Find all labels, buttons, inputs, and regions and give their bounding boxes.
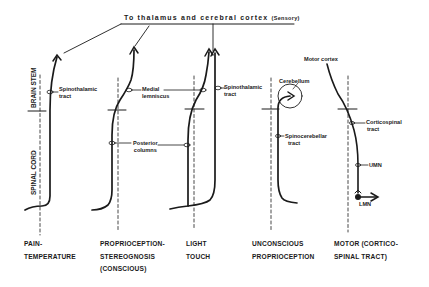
light-touch-spinothalamic-fiber — [188, 53, 215, 206]
caption-unconscious-proprioception: UNCONSCIOUS PROPRIOCEPTION — [252, 238, 315, 263]
spinal-cord-label: SPINAL CORD — [30, 150, 37, 195]
caption-pain-temperature: PAIN- TEMPERATURE — [24, 238, 76, 263]
diagram-title: To thalamus and cerebral cortex (Sensory… — [124, 14, 300, 21]
spinocerebellar-tract — [278, 96, 297, 203]
light-touch-medial-fiber — [170, 52, 209, 209]
posterior-column-tract — [92, 50, 134, 210]
caption-light-touch: LIGHT TOUCH — [186, 238, 210, 263]
brain-stem-label: BRAIN STEM — [30, 68, 37, 108]
corticospinal-label: Corticospinal tract — [366, 119, 402, 132]
synapse-spinothalamic-2 — [215, 86, 221, 90]
leader-line-1 — [64, 24, 121, 53]
leader-line-2 — [135, 26, 149, 46]
caption-proprioception: PROPRIOCEPTION- STEREOGNOSIS (CONSCIOUS) — [100, 238, 165, 276]
umn-label: UMN — [369, 162, 382, 169]
lmn-label: LMN — [359, 201, 371, 208]
synapse-posterior-columns-2 — [184, 143, 190, 147]
cerebellum-label: Cerebellum — [279, 78, 309, 85]
title-main: To thalamus and cerebral cortex — [124, 14, 268, 21]
spinocerebellar-label: Spinocerebellar tract — [285, 133, 327, 146]
spinothalamic-label-1: Spinothalamic tract — [59, 86, 97, 99]
posterior-columns-label: Posterior columns — [133, 140, 158, 153]
title-suffix: (Sensory) — [272, 15, 300, 21]
corticospinal-tract — [327, 64, 358, 193]
spinothalamic-label-2: Spinothalamic tract — [224, 84, 262, 97]
lmn-cell-body — [355, 194, 361, 200]
spinal-tracts-diagram: To thalamus and cerebral cortex (Sensory… — [0, 0, 429, 287]
caption-motor: MOTOR (CORTICO- SPINAL TRACT) — [334, 238, 398, 263]
motor-cortex-label: Motor cortex — [304, 56, 338, 63]
medial-lemniscus-label: Medial lemniscus — [142, 86, 169, 99]
